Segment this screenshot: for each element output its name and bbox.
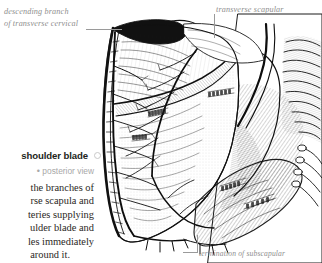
caption-body-line-5: les immediately	[0, 235, 94, 248]
leader-riser-termination-subscapular	[197, 235, 198, 253]
caption-body: the branches of rse scapula and teries s…	[0, 181, 104, 261]
label-descending-branch: descending branch of transverse cervical	[4, 6, 78, 29]
label-descending-branch-line1: descending branch	[4, 6, 78, 18]
label-descending-branch-line2: of transverse cervical	[4, 18, 78, 30]
caption-body-line-6: around it.	[0, 248, 94, 261]
caption-block: shoulder blade • posterior view the bran…	[0, 150, 104, 261]
caption-subtitle-text: posterior view	[42, 166, 94, 176]
leader-line-descending-branch	[86, 29, 122, 30]
circle-icon[interactable]	[94, 152, 101, 159]
caption-title-text: shoulder blade	[21, 150, 88, 161]
caption-title: shoulder blade	[0, 150, 104, 161]
leader-line-transverse-scapular	[214, 14, 215, 38]
caption-body-line-4: ulder blade and	[0, 221, 94, 234]
label-termination-subscapular: termination of subscapular	[199, 248, 285, 260]
caption-subtitle: • posterior view	[0, 166, 104, 176]
scapula-engraving	[88, 8, 322, 263]
label-transverse-scapular: transverse scapular	[216, 4, 284, 16]
illustration-page: descending branch of transverse cervical…	[0, 0, 322, 263]
caption-body-line-2: rse scapula and	[0, 194, 94, 207]
leader-line-termination-subscapular	[183, 252, 198, 253]
caption-body-line-3: teries supplying	[0, 208, 94, 221]
bullet-icon: •	[37, 166, 40, 176]
caption-body-line-1: the branches of	[0, 181, 94, 194]
